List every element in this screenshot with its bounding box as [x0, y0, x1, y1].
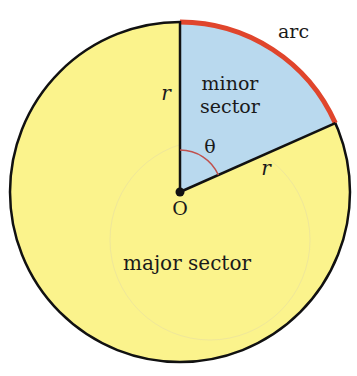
minor-sector-label-line1: minor: [202, 72, 260, 94]
angle-label: θ: [204, 135, 215, 157]
major-sector-label: major sector: [123, 251, 251, 275]
center-point: [176, 188, 185, 197]
arc-label: arc: [278, 20, 309, 42]
radius-slanted-label: r: [261, 156, 272, 180]
sector-diagram: arc minor sector θ r r O major sector: [0, 0, 357, 376]
radius-vertical-label: r: [161, 81, 172, 105]
center-label: O: [172, 197, 188, 219]
minor-sector-label-line2: sector: [200, 95, 261, 117]
